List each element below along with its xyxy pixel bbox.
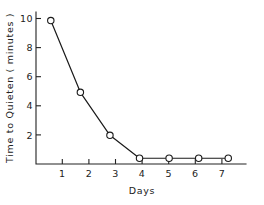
series-markers bbox=[48, 17, 232, 161]
data-point-marker bbox=[225, 155, 231, 161]
x-tick-label-4: 4 bbox=[139, 168, 145, 179]
x-tick-label-5: 5 bbox=[165, 168, 171, 179]
data-point-marker bbox=[107, 132, 113, 138]
data-point-marker bbox=[77, 89, 83, 95]
line-chart: Time to Quieten ( minutes ) 10 8 6 4 2 1… bbox=[0, 0, 264, 205]
y-tick-label-6: 6 bbox=[27, 71, 33, 82]
x-tick-label-3: 3 bbox=[112, 168, 118, 179]
axis-frame bbox=[36, 12, 246, 164]
x-axis-title: Days bbox=[129, 185, 156, 196]
series-line bbox=[51, 21, 228, 159]
x-tick-label-6: 6 bbox=[192, 168, 198, 179]
data-point-marker bbox=[136, 155, 142, 161]
y-axis-title: Time to Quieten ( minutes ) bbox=[4, 13, 15, 164]
x-tick-label-1: 1 bbox=[59, 168, 65, 179]
x-tick-label-7: 7 bbox=[219, 168, 225, 179]
y-tick-label-2: 2 bbox=[27, 130, 33, 141]
y-tick-label-10: 10 bbox=[20, 13, 33, 24]
data-point-marker bbox=[195, 155, 201, 161]
y-tick-label-8: 8 bbox=[27, 42, 33, 53]
y-tick-label-4: 4 bbox=[27, 100, 33, 111]
x-tick-label-2: 2 bbox=[86, 168, 92, 179]
chart-figure: Time to Quieten ( minutes ) 10 8 6 4 2 1… bbox=[0, 0, 264, 205]
data-point-marker bbox=[166, 155, 172, 161]
data-point-marker bbox=[48, 17, 54, 23]
